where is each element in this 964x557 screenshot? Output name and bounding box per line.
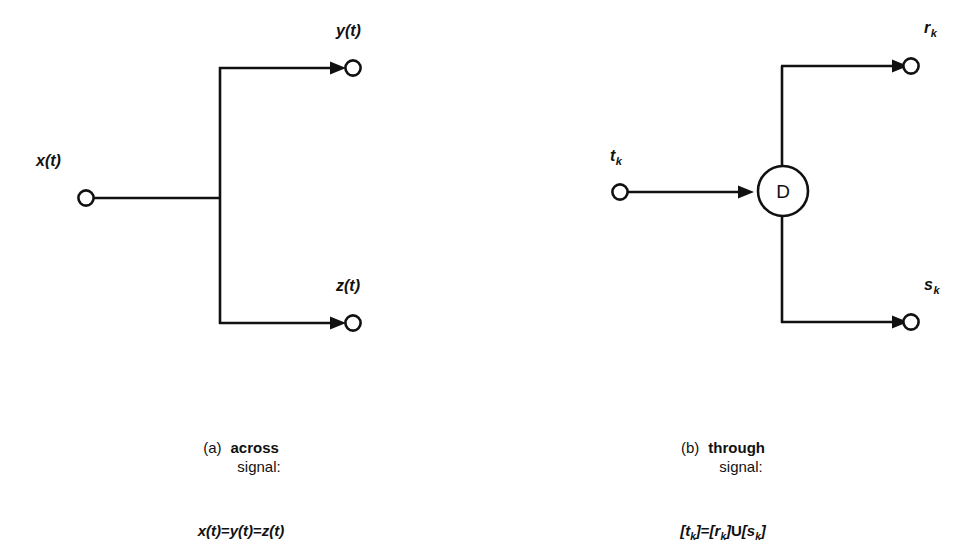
port-label-source-subscript: k [615, 155, 622, 167]
arrowhead-block-input [738, 186, 754, 199]
formula-token: = [253, 522, 262, 539]
arrowhead-output-2 [330, 317, 346, 330]
port-label-source: x(t) [36, 153, 61, 169]
port-label-source-text: x(t) [36, 152, 61, 169]
caption-formula-across: x(t)=y(t)=z(t) [0, 522, 482, 540]
panel-across-signal: x(t) y(t) z(t) (a)across signal: x(t)=y(… [0, 0, 482, 557]
formula-token: ] [761, 522, 766, 539]
caption-term-across: across [221, 439, 278, 456]
across-signal-diagram [0, 0, 482, 420]
caption-heading-through: (b)through [482, 438, 964, 457]
caption-term-through: through [699, 439, 765, 456]
formula-token: [s [742, 522, 755, 539]
formula-token: x(t) [198, 522, 221, 539]
formula-token: y(t) [230, 522, 253, 539]
formula-token: = [701, 522, 710, 539]
caption-subtitle-across: signal: [0, 457, 500, 476]
port-node-source [78, 190, 93, 205]
port-label-output-2-text: z(t) [336, 277, 360, 294]
caption-subtitle-through: signal: [482, 457, 964, 476]
port-label-output-1-text: y(t) [336, 22, 361, 39]
port-label-output-2: sk [924, 277, 940, 296]
arrowhead-output-1 [330, 62, 346, 75]
formula-token: [t [680, 522, 690, 539]
port-label-output-1: y(t) [336, 23, 361, 39]
caption-subtitle-through-text: signal: [719, 458, 762, 475]
formula-token: = [221, 522, 230, 539]
caption-formula-across-text: x(t)=y(t)=z(t) [198, 522, 285, 539]
through-signal-diagram: D [482, 0, 964, 420]
port-node-output-1 [345, 60, 360, 75]
port-label-source: tk [610, 148, 622, 167]
port-node-source [612, 184, 627, 199]
formula-token: z(t) [262, 522, 285, 539]
caption-heading-across: (a)across [0, 438, 482, 457]
caption-subtitle-across-text: signal: [237, 458, 280, 475]
port-label-output-2-subscript: k [933, 284, 940, 296]
panel-through-signal: D tk rk sk (b)through signal: [tk]=[rk]U… [482, 0, 964, 557]
port-node-output-2 [345, 315, 360, 330]
port-label-output-1-subscript: k [930, 27, 937, 39]
caption-tag-across: (a) [203, 439, 221, 456]
block-node-d-letter: D [776, 181, 790, 202]
port-node-output-1 [903, 58, 918, 73]
port-label-output-1: rk [924, 20, 937, 39]
formula-token: [r [710, 522, 721, 539]
caption-formula-through: [tk]=[rk]U[sk] [482, 522, 964, 546]
port-label-output-2: z(t) [336, 278, 360, 294]
figure-root: x(t) y(t) z(t) (a)across signal: x(t)=y(… [0, 0, 964, 557]
caption-tag-through: (b) [681, 439, 699, 456]
port-node-output-2 [903, 314, 918, 329]
caption-formula-through-text: [tk]=[rk]U[sk] [680, 522, 765, 539]
port-label-output-2-text: s [924, 276, 933, 293]
formula-token: U [731, 522, 742, 539]
